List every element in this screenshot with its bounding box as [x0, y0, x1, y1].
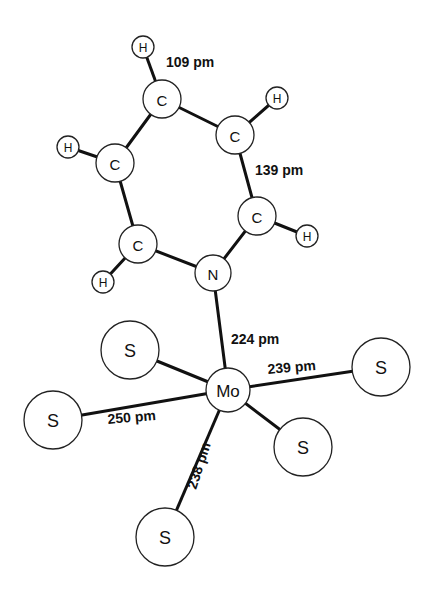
atom-symbol: S	[297, 438, 309, 458]
atom-symbol: S	[375, 358, 387, 378]
atom-symbol: H	[303, 230, 312, 244]
atom-symbol: C	[252, 209, 263, 226]
atom-symbol: C	[230, 128, 241, 145]
atom-h4: H	[266, 87, 288, 109]
bond-length-label-mo-n: 224 pm	[231, 331, 279, 347]
atom-symbol: S	[47, 411, 59, 431]
atom-symbol: C	[110, 156, 121, 173]
atom-s3: S	[352, 338, 410, 396]
bond-length-label-mo-s-bottom: 238 pm	[184, 440, 214, 491]
atom-symbol: N	[208, 266, 219, 283]
atom-symbol: H	[64, 141, 73, 155]
atom-c4: C	[216, 116, 254, 154]
atom-s4: S	[274, 418, 332, 476]
bond-length-label-c-h: 109 pm	[166, 54, 214, 70]
molecule-diagram: MoNCCCCCHHHHHSSSSS 109 pm 139 pm 224 pm …	[0, 0, 434, 590]
atom-h1: H	[92, 271, 114, 293]
atom-h2: H	[57, 136, 79, 158]
atom-symbol: C	[133, 237, 144, 254]
atom-s5: S	[136, 508, 194, 566]
atom-h5: H	[296, 225, 318, 247]
atom-symbol: S	[159, 528, 171, 548]
atom-symbol: Mo	[216, 382, 240, 401]
atom-symbol: H	[273, 92, 282, 106]
atom-c5: C	[238, 197, 276, 235]
atom-c2: C	[96, 144, 134, 182]
atom-s1: S	[101, 321, 159, 379]
atom-s2: S	[24, 391, 82, 449]
bond-length-label-mo-s-right: 239 pm	[267, 357, 316, 377]
atom-symbol: H	[99, 276, 108, 290]
atom-h3: H	[132, 36, 154, 58]
atom-symbol: H	[139, 41, 148, 55]
atom-c1: C	[119, 225, 157, 263]
atom-mo: Mo	[206, 368, 250, 412]
atom-n: N	[195, 255, 231, 291]
atom-symbol: S	[124, 341, 136, 361]
bond-length-label-c-c: 139 pm	[255, 162, 303, 178]
atom-c3: C	[143, 80, 181, 118]
atom-symbol: C	[157, 92, 168, 109]
bond-length-label-mo-s-left: 250 pm	[107, 407, 156, 427]
